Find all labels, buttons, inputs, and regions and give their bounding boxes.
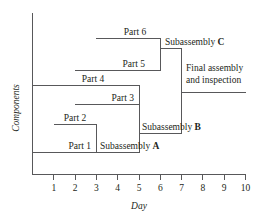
- label-part1: Part 1: [69, 141, 92, 151]
- y-axis-title: Components: [11, 84, 21, 132]
- label-subassembly-c: Subassembly C: [165, 37, 225, 47]
- x-tick-label-5: 5: [137, 183, 142, 193]
- x-axis-title: Day: [130, 201, 148, 211]
- label-subassembly-b-id: B: [195, 122, 202, 132]
- label-part5: Part 5: [123, 59, 146, 69]
- label-part4: Part 4: [82, 74, 105, 84]
- label-subassembly-b-text: Subassembly: [142, 122, 195, 132]
- bar-part5: [75, 49, 160, 71]
- x-tick-label-3: 3: [94, 183, 99, 193]
- x-tick-label-4: 4: [115, 183, 120, 193]
- label-subassembly-a-text: Subassembly: [100, 141, 153, 151]
- bar-part6: [96, 39, 160, 49]
- x-tick-label-10: 10: [241, 183, 251, 193]
- x-axis-tick-labels: 1 2 3 4 5 6 7 8 9 10: [51, 183, 250, 193]
- x-tick-label-7: 7: [179, 183, 184, 193]
- label-subassembly-a-id: A: [153, 141, 160, 151]
- label-final-assembly-line2: and inspection: [186, 75, 241, 85]
- diagram-canvas: 1 2 3 4 5 6 7 8 9 10 Day Components Part…: [0, 0, 264, 221]
- x-tick-label-8: 8: [201, 183, 206, 193]
- x-axis-ticks: [54, 175, 246, 180]
- label-subassembly-c-id: C: [218, 37, 225, 47]
- label-part6: Part 6: [124, 27, 147, 37]
- label-part3: Part 3: [112, 93, 135, 103]
- x-tick-label-9: 9: [222, 183, 227, 193]
- assembly-network-diagram: 1 2 3 4 5 6 7 8 9 10 Day Components Part…: [0, 0, 264, 221]
- x-tick-label-6: 6: [158, 183, 163, 193]
- bar-subassembly-c: [160, 49, 181, 93]
- label-final-assembly-line1: Final assembly: [186, 63, 244, 73]
- label-subassembly-a: Subassembly A: [100, 141, 160, 151]
- x-tick-label-1: 1: [51, 183, 56, 193]
- label-part2: Part 2: [64, 113, 87, 123]
- x-tick-label-2: 2: [73, 183, 78, 193]
- label-subassembly-b: Subassembly B: [142, 122, 202, 132]
- label-subassembly-c-text: Subassembly: [165, 37, 218, 47]
